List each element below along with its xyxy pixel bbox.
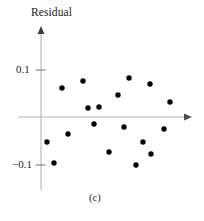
data-point [126,75,131,80]
scatter-plot-canvas [0,0,204,221]
x-axis-arrowhead [184,114,192,121]
data-point [121,124,126,129]
figure-caption: (c) [89,193,101,204]
data-point [140,139,145,144]
data-point [96,104,101,109]
y-tick-label-positive: 0.1 [16,64,30,75]
data-point [51,160,56,165]
data-point [59,85,64,90]
data-point [80,78,85,83]
data-point [147,81,152,86]
data-point [65,131,70,136]
y-axis-arrowhead [38,26,45,34]
data-point [44,139,49,144]
y-axis-label: Residual [31,7,72,19]
data-point [115,92,120,97]
data-point [91,121,96,126]
data-point [133,162,138,167]
y-tick-label-negative: −0.1 [12,159,32,170]
data-point [148,151,153,156]
residual-scatter-figure: Residual 0.1 −0.1 (c) [0,0,204,221]
data-point [161,126,166,131]
data-point [85,105,90,110]
data-point [106,149,111,154]
data-point [167,99,172,104]
